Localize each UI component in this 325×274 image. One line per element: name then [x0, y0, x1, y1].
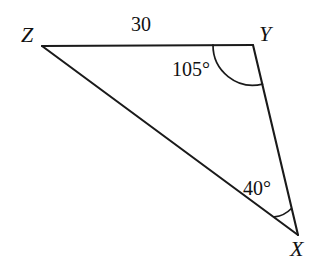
- vertex-label-z: Z: [21, 24, 33, 46]
- side-zy-line: [42, 45, 253, 46]
- angle-measure-label-x: 40°: [243, 178, 271, 198]
- side-length-label-zy: 30: [131, 14, 151, 34]
- angle-arc-x: [275, 209, 292, 217]
- angle-measure-label-y: 105°: [172, 59, 210, 79]
- vertex-label-x: X: [290, 238, 303, 260]
- vertex-label-y: Y: [259, 23, 271, 45]
- geometry-figure: Z Y X 30 105° 40°: [0, 0, 325, 274]
- triangle-drawing: [0, 0, 325, 274]
